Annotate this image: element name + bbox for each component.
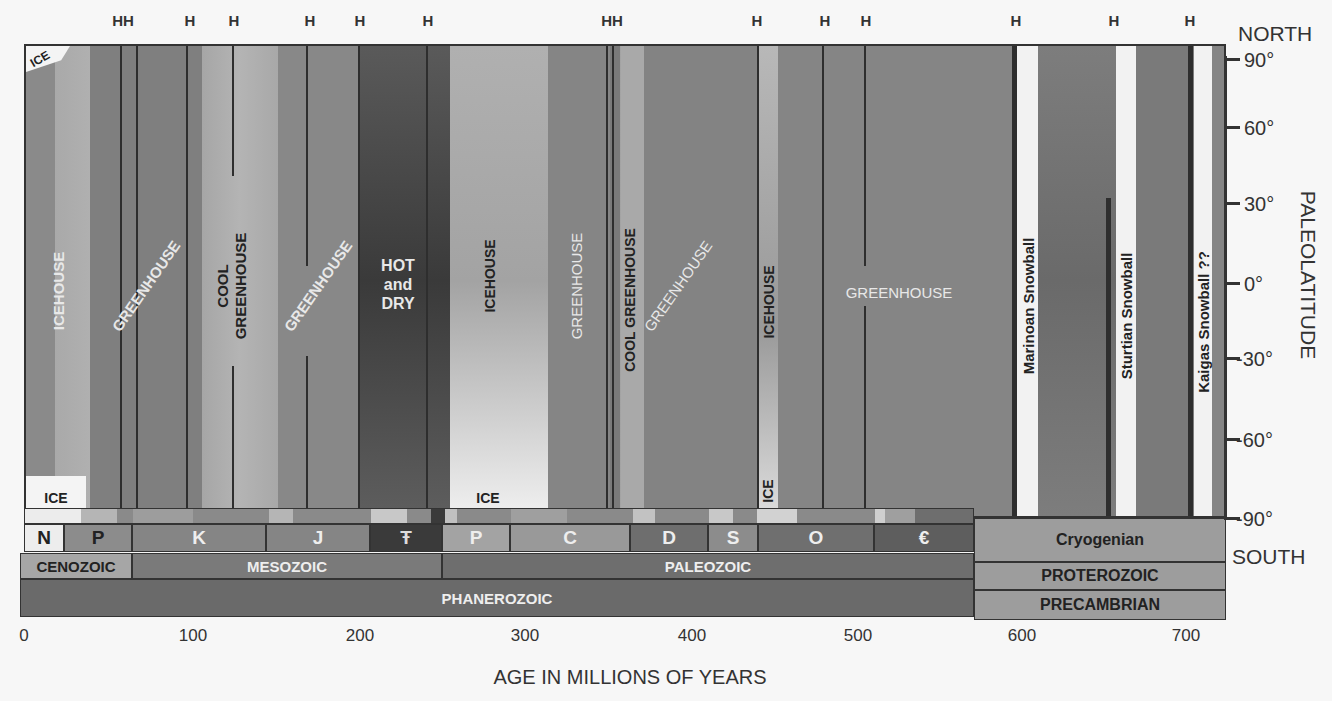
y-tick-label: -30° bbox=[1236, 348, 1273, 371]
h-marker: H bbox=[752, 12, 763, 29]
x-tick-label: 700 bbox=[1172, 626, 1200, 646]
stage-block bbox=[511, 509, 567, 523]
hyperthermal-line bbox=[1188, 46, 1193, 518]
hyperthermal-line bbox=[120, 46, 122, 518]
x-tick-label: 200 bbox=[346, 626, 374, 646]
hyperthermal-line bbox=[612, 46, 614, 518]
y-tick-label: -90° bbox=[1236, 508, 1273, 531]
x-tick-label: 500 bbox=[844, 626, 872, 646]
greenhouse-label: GREENHOUSE bbox=[568, 233, 585, 340]
era-mesozoic: MESOZOIC bbox=[132, 553, 442, 579]
x-tick-label: 100 bbox=[179, 626, 207, 646]
period-cretaceous: K bbox=[132, 524, 266, 552]
hyperthermal-line bbox=[358, 46, 360, 518]
sturtian-snowball-label: Sturtian Snowball bbox=[1118, 253, 1135, 380]
dry-text: DRY bbox=[381, 294, 415, 313]
y-tick bbox=[1226, 58, 1240, 61]
era-proterozoic: PROTEROZOIC bbox=[974, 562, 1226, 590]
hyperthermal-line bbox=[1106, 198, 1111, 518]
greenhouse-band bbox=[1136, 46, 1190, 516]
greenhouse-band bbox=[644, 46, 758, 516]
ice-label: ICE bbox=[476, 490, 499, 506]
period-jurassic: J bbox=[266, 524, 370, 552]
era-paleozoic: PALEOZOIC bbox=[442, 553, 974, 579]
hyperthermal-line bbox=[1012, 46, 1017, 518]
period-cryogenian: Cryogenian bbox=[974, 518, 1226, 562]
stage-block bbox=[757, 509, 797, 523]
icehouse-band bbox=[450, 46, 548, 516]
period-devonian: D bbox=[630, 524, 708, 552]
y-tick bbox=[1226, 126, 1240, 129]
period-silurian: S bbox=[708, 524, 758, 552]
stage-block bbox=[269, 509, 293, 523]
x-tick-label: 600 bbox=[1008, 626, 1036, 646]
kaigas-snowball-label: Kaigas Snowball ?? bbox=[1195, 251, 1212, 393]
south-label: SOUTH bbox=[1232, 545, 1306, 569]
h-marker: H bbox=[1185, 12, 1196, 29]
hyperthermal-line bbox=[232, 46, 234, 176]
cool-greenhouse-label: COOL GREENHOUSE bbox=[214, 233, 250, 340]
hyperthermal-line bbox=[186, 46, 188, 518]
climate-plot-area: ICE ICE ICE ICE ICEHOUSE GREENHOUSE COOL… bbox=[24, 44, 1226, 518]
greenhouse-band bbox=[778, 46, 1016, 516]
x-tick-label: 0 bbox=[19, 626, 28, 646]
hyperthermal-line bbox=[426, 46, 428, 518]
hyperthermal-line bbox=[606, 46, 608, 518]
y-tick-label: 0° bbox=[1244, 273, 1263, 296]
hh-marker: HH bbox=[601, 12, 623, 29]
y-tick bbox=[1226, 282, 1240, 285]
north-label: NORTH bbox=[1238, 22, 1312, 46]
stage-block bbox=[709, 509, 733, 523]
hot-dry-label: HOT and DRY bbox=[381, 256, 415, 313]
hyperthermal-line bbox=[864, 46, 866, 266]
hyperthermal-line bbox=[306, 356, 308, 518]
ice-label: ICE bbox=[760, 479, 776, 502]
stage-block bbox=[875, 509, 885, 523]
and-text: and bbox=[381, 275, 415, 294]
ice-label: ICE bbox=[44, 490, 67, 506]
x-tick-label: 300 bbox=[511, 626, 539, 646]
greenhouse-text: GREENHOUSE bbox=[232, 233, 250, 340]
h-marker: H bbox=[229, 12, 240, 29]
hot-text: HOT bbox=[381, 256, 415, 275]
stage-block bbox=[431, 509, 445, 523]
y-tick-label: 90° bbox=[1244, 49, 1274, 72]
eon-phanerozoic: PHANEROZOIC bbox=[20, 579, 974, 617]
hyperthermal-line bbox=[232, 366, 234, 518]
x-tick-label: 400 bbox=[678, 626, 706, 646]
stage-block bbox=[915, 509, 973, 523]
stage-block bbox=[25, 509, 81, 523]
y-tick-label: -60° bbox=[1236, 429, 1273, 452]
h-marker: H bbox=[1011, 12, 1022, 29]
icehouse-label: ICEHOUSE bbox=[482, 239, 498, 312]
hyperthermal-line bbox=[822, 46, 824, 518]
stage-block bbox=[81, 509, 117, 523]
period-carboniferous: C bbox=[510, 524, 630, 552]
greenhouse-label: GREENHOUSE bbox=[846, 284, 953, 301]
period-permian: P bbox=[442, 524, 510, 552]
stage-block bbox=[371, 509, 407, 523]
period-paleogene: P bbox=[64, 524, 132, 552]
hh-marker: HH bbox=[112, 12, 134, 29]
h-marker: H bbox=[185, 12, 196, 29]
h-marker: H bbox=[423, 12, 434, 29]
greenhouse-band bbox=[1038, 46, 1116, 516]
stage-block bbox=[633, 509, 655, 523]
stage-block bbox=[885, 509, 915, 523]
h-marker: H bbox=[1109, 12, 1120, 29]
y-axis-title: PALEOLATITUDE bbox=[1296, 191, 1320, 359]
period-triassic: Ŧ bbox=[370, 524, 442, 552]
y-tick bbox=[1226, 202, 1240, 205]
cool-greenhouse-label: COOL GREENHOUSE bbox=[622, 228, 638, 372]
hyperthermal-line bbox=[306, 46, 308, 266]
y-tick-label: 60° bbox=[1244, 117, 1274, 140]
h-marker: H bbox=[355, 12, 366, 29]
stage-block bbox=[445, 509, 457, 523]
h-marker: H bbox=[820, 12, 831, 29]
period-cambrian: € bbox=[874, 524, 974, 552]
y-tick-label: 30° bbox=[1244, 193, 1274, 216]
icehouse-label: ICEHOUSE bbox=[761, 265, 777, 338]
hyperthermal-line bbox=[757, 46, 759, 518]
stage-row bbox=[24, 508, 974, 524]
stage-block bbox=[133, 509, 193, 523]
